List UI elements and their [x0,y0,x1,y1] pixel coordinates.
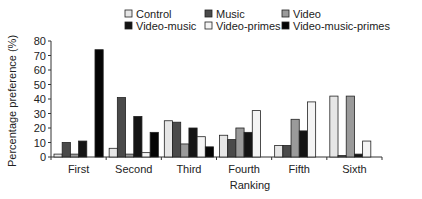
y-axis-label: Percentage preference (%) [6,35,18,167]
y-tick-label: 10 [34,137,46,149]
bar [181,144,189,157]
bar [236,128,244,157]
legend-label: Video-music [136,20,197,32]
legend-swatch [282,10,289,17]
legend-swatch [282,22,289,29]
bar [189,128,197,157]
bar [134,116,142,157]
bar [79,141,87,157]
y-tick-label: 70 [34,50,46,62]
y-tick-label: 0 [40,151,46,163]
x-tick-label: Sixth [342,163,366,175]
legend-label: Control [136,8,171,20]
y-tick-label: 20 [34,122,46,134]
bar [354,154,362,157]
bar [219,135,227,157]
bar [330,96,338,157]
bar [142,153,150,157]
x-tick-label: Fifth [289,163,310,175]
bar [346,96,354,157]
y-tick-label: 60 [34,64,46,76]
bar [283,145,291,157]
bar [244,132,252,157]
legend-swatch [125,22,132,29]
bar [126,154,134,157]
bar [275,145,283,157]
grouped-bar-chart: ControlMusicVideoVideo-musicVideo-primes… [0,0,422,199]
legend-swatch [205,10,212,17]
bar [363,141,371,157]
x-tick-label: Second [115,163,152,175]
bars [54,50,371,157]
y-tick-label: 50 [34,79,46,91]
bar [54,154,62,157]
legend-label: Music [216,8,245,20]
bar [117,98,125,157]
x-axis-label: Ranking [230,179,270,191]
x-axis: FirstSecondThirdFourthFifthSixth [51,157,382,175]
bar [197,137,205,157]
x-tick-label: Third [176,163,201,175]
y-tick-label: 40 [34,93,46,105]
legend-label: Video-music-primes [293,20,390,32]
bar [338,156,346,157]
bar [173,122,181,157]
x-tick-label: First [68,163,89,175]
bar [150,132,158,157]
bar [299,131,307,157]
y-axis: 01020304050607080 [34,35,51,163]
bar [291,119,299,157]
bar [307,102,315,157]
bar [109,148,117,157]
bar [70,154,78,157]
bar [164,121,172,157]
legend: ControlMusicVideoVideo-musicVideo-primes… [125,8,390,32]
bar [252,111,260,157]
legend-label: Video [293,8,321,20]
y-tick-label: 30 [34,108,46,120]
bar [95,50,103,157]
legend-label: Video-primes [216,20,281,32]
x-tick-label: Fourth [228,163,260,175]
bar [62,143,70,158]
bar [205,147,213,157]
y-tick-label: 80 [34,35,46,47]
legend-swatch [125,10,132,17]
legend-swatch [205,22,212,29]
bar [228,140,236,157]
chart-canvas: ControlMusicVideoVideo-musicVideo-primes… [0,0,422,199]
